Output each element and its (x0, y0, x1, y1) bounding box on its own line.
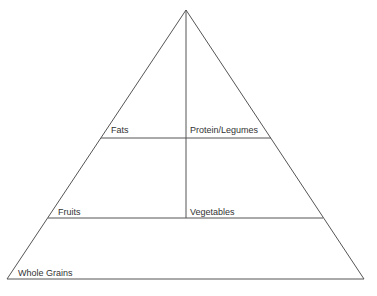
label-fruits: Fruits (58, 207, 81, 217)
label-whole-grains: Whole Grains (18, 268, 73, 278)
pyramid-outline (0, 0, 377, 296)
label-protein-legumes: Protein/Legumes (190, 125, 258, 135)
label-vegetables: Vegetables (190, 207, 235, 217)
label-fats: Fats (111, 125, 129, 135)
